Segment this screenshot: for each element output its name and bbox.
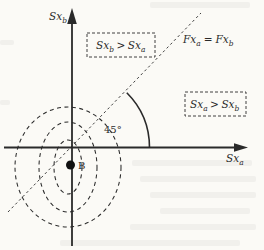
region-upper-left-label: Sxb>Sxa (96, 39, 145, 54)
angle-label: 45° (104, 124, 122, 135)
diagram-canvas: B 45° Sxb Sxa Fxa=Fxb Sxb>Sxa Sxa>Sxb (0, 0, 264, 250)
point-b-dot (66, 161, 75, 170)
region-box-lower-right: Sxa>Sxb (185, 92, 246, 116)
x-axis-arrowhead (234, 143, 248, 152)
angle-arc (127, 93, 150, 148)
diagonal-line-label: Fxa=Fxb (182, 33, 234, 48)
y-axis-arrowhead (67, 8, 77, 24)
y-axis-label: Sxb (49, 10, 67, 25)
point-b-label: B (78, 160, 85, 171)
phase-diagram-figure: B 45° Sxb Sxa Fxa=Fxb Sxb>Sxa Sxa>Sxb (0, 0, 264, 250)
region-lower-right-label: Sxa>Sxb (190, 98, 240, 113)
region-box-upper-left: Sxb>Sxa (87, 33, 155, 57)
